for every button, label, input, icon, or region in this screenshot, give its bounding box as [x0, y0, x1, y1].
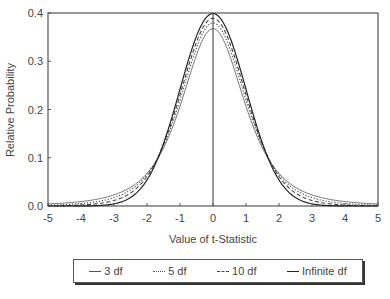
x-tick-label: -2	[142, 212, 152, 224]
x-tick-label: 5	[375, 212, 381, 224]
solid-line-icon	[287, 271, 299, 272]
y-tick-label: 0.2	[28, 104, 43, 116]
y-tick-label: 0.4	[28, 7, 43, 19]
legend-label: 10 df	[232, 265, 256, 277]
x-tick-label: 4	[342, 212, 348, 224]
x-tick-label: 2	[276, 212, 282, 224]
y-tick-label: 0.1	[28, 152, 43, 164]
legend-item-infinite-df: Infinite df	[287, 265, 347, 277]
t-distribution-chart: -5-4-3-2-1012345 0.00.10.20.30.4 Value o…	[0, 0, 390, 258]
legend-item-10df: 10 df	[217, 265, 256, 277]
x-tick-label: -1	[175, 212, 185, 224]
x-tick-label: 0	[210, 212, 216, 224]
x-tick-label: -4	[76, 212, 86, 224]
dotted-line-icon	[153, 271, 165, 272]
y-axis-title: Relative Probability	[4, 62, 16, 157]
legend-label: 5 df	[168, 265, 186, 277]
legend-item-5df: 5 df	[153, 265, 186, 277]
solid-thin-line-icon	[89, 271, 101, 272]
x-tick-label: 3	[309, 212, 315, 224]
legend-item-3df: 3 df	[89, 265, 122, 277]
legend-label: 3 df	[104, 265, 122, 277]
chart-legend: 3 df 5 df 10 df Infinite df	[73, 259, 363, 283]
y-tick-label: 0.3	[28, 55, 43, 67]
x-tick-label: 1	[243, 212, 249, 224]
dashed-line-icon	[217, 271, 229, 272]
x-tick-label: -5	[43, 212, 53, 224]
legend-label: Infinite df	[302, 265, 347, 277]
y-tick-label: 0.0	[28, 200, 43, 212]
x-axis-title: Value of t-Statistic	[169, 233, 257, 245]
x-tick-label: -3	[109, 212, 119, 224]
